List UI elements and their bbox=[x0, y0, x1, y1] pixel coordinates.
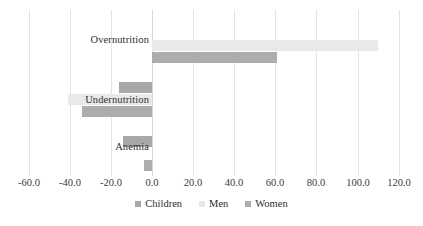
gridline bbox=[193, 10, 194, 176]
gridline bbox=[275, 10, 276, 176]
bar-women-undernutrition bbox=[82, 106, 152, 117]
gridline bbox=[316, 10, 317, 176]
bar-women-overnutrition bbox=[152, 52, 277, 63]
legend-label: Children bbox=[145, 198, 182, 210]
x-axis: -60.0-40.0-20.00.020.040.060.080.0100.01… bbox=[0, 176, 423, 192]
legend-label: Women bbox=[255, 198, 287, 210]
legend-label: Men bbox=[209, 198, 228, 210]
gridline bbox=[399, 10, 400, 176]
legend-item-men[interactable]: Men bbox=[199, 198, 228, 210]
category-label-overnutrition: Overnutrition bbox=[91, 34, 149, 45]
gridline bbox=[29, 10, 30, 176]
bar-chart: OvernutritionUndernutritionAnemia -60.0-… bbox=[0, 0, 423, 226]
chart-legend: ChildrenMenWomen bbox=[0, 196, 423, 212]
bar-children-undernutrition bbox=[119, 82, 152, 93]
x-tick-label: 80.0 bbox=[307, 176, 325, 190]
plot-area: OvernutritionUndernutritionAnemia bbox=[0, 10, 423, 176]
x-tick-label: 60.0 bbox=[266, 176, 284, 190]
x-tick-label: 40.0 bbox=[225, 176, 243, 190]
x-tick-label: -20.0 bbox=[100, 176, 122, 190]
legend-item-women[interactable]: Women bbox=[245, 198, 287, 210]
legend-swatch-icon bbox=[199, 201, 205, 207]
x-tick-label: 120.0 bbox=[387, 176, 411, 190]
x-tick-label: -40.0 bbox=[59, 176, 81, 190]
gridline bbox=[358, 10, 359, 176]
x-tick-label: 20.0 bbox=[184, 176, 202, 190]
x-tick-label: 0.0 bbox=[145, 176, 158, 190]
bar-women-anemia bbox=[144, 160, 152, 171]
bar-men-overnutrition bbox=[152, 40, 378, 51]
category-label-undernutrition: Undernutrition bbox=[85, 94, 149, 105]
gridline bbox=[152, 10, 153, 176]
legend-swatch-icon bbox=[245, 201, 251, 207]
category-label-anemia: Anemia bbox=[115, 141, 149, 152]
x-tick-label: 100.0 bbox=[346, 176, 370, 190]
legend-item-children[interactable]: Children bbox=[135, 198, 182, 210]
gridline bbox=[70, 10, 71, 176]
gridline bbox=[234, 10, 235, 176]
legend-swatch-icon bbox=[135, 201, 141, 207]
x-tick-label: -60.0 bbox=[18, 176, 40, 190]
